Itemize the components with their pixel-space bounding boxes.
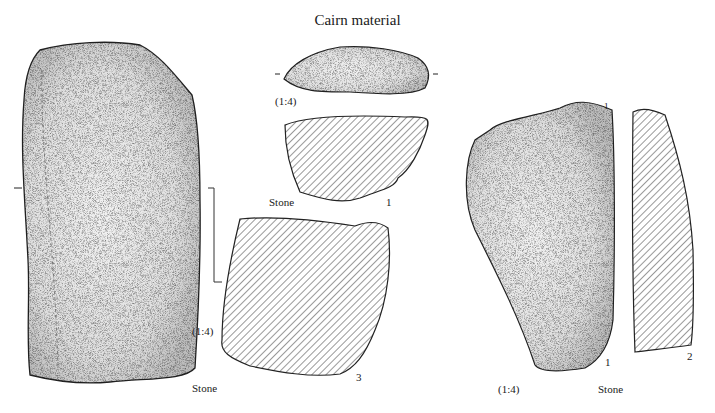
large-stone-drawing — [14, 42, 200, 383]
stone-1-material-label: Stone — [269, 197, 294, 208]
right-stone-top-mark: 1 — [604, 102, 609, 111]
stone-3-section-drawing — [222, 218, 390, 375]
stone-1-number-label: 1 — [386, 197, 392, 208]
right-stone-bottom-mark: 1 — [605, 357, 611, 368]
drawing-canvas — [0, 0, 715, 413]
large-stone-scale-label: (1:4) — [192, 326, 213, 337]
stone-3-number-label: 3 — [356, 372, 362, 383]
large-stone-material-label: Stone — [192, 383, 217, 394]
stone-1-scale-label: (1:4) — [275, 96, 296, 107]
right-stone-drawing — [466, 102, 614, 370]
stone-1-profile-drawing — [275, 47, 438, 94]
stone-1-section-drawing — [285, 116, 428, 201]
right-stone-scale-label: (1:4) — [498, 384, 519, 395]
stone-2-number-label: 2 — [687, 351, 693, 362]
right-stone-material-label: Stone — [598, 384, 623, 395]
stone-2-section-drawing — [633, 109, 694, 352]
section-bracket — [208, 188, 222, 282]
